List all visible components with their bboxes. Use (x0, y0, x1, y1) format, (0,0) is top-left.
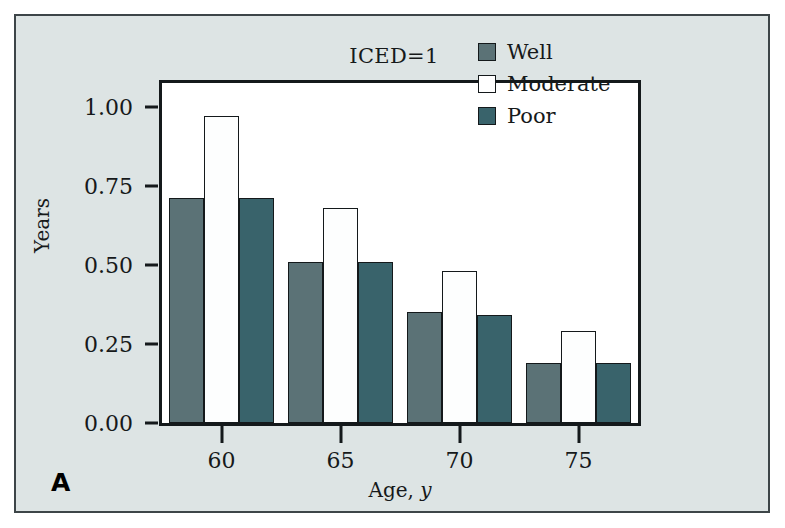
y-tick-label: 1.00 (47, 94, 133, 119)
y-tick-mark (145, 263, 158, 266)
y-axis-label: Years (30, 198, 54, 253)
y-tick-mark (145, 105, 158, 108)
legend-swatch-well-icon (478, 43, 496, 61)
x-axis-label-unit: y (420, 478, 431, 502)
bar-poor-65 (358, 262, 393, 423)
bar-poor-75 (596, 363, 631, 423)
y-tick-mark (145, 422, 158, 425)
y-tick-label: 0.25 (47, 331, 133, 356)
y-tick-mark (145, 342, 158, 345)
panel-label: A (51, 468, 70, 497)
x-tick-label: 75 (544, 448, 614, 473)
legend-swatch-moderate-icon (478, 75, 496, 93)
x-tick-mark (339, 426, 342, 443)
y-tick-mark (145, 184, 158, 187)
x-axis-label: Age, y (159, 478, 641, 502)
bar-well-70 (407, 312, 442, 423)
bar-moderate-65 (323, 208, 358, 423)
legend: WellModeratePoor (478, 39, 610, 135)
bar-poor-70 (477, 315, 512, 423)
x-tick-mark (220, 426, 223, 443)
legend-item-poor[interactable]: Poor (478, 103, 610, 128)
x-tick-label: 65 (306, 448, 376, 473)
bar-poor-60 (239, 198, 274, 423)
bar-well-75 (526, 363, 561, 423)
legend-label: Well (507, 40, 553, 64)
y-tick-label: 0.75 (47, 173, 133, 198)
bar-well-60 (169, 198, 204, 423)
y-tick-label: 0.50 (47, 252, 133, 277)
legend-swatch-poor-icon (478, 107, 496, 125)
chart-title: ICED=1 (16, 44, 772, 68)
legend-label: Moderate (507, 72, 610, 96)
bar-well-65 (288, 262, 323, 423)
y-tick-label: 0.00 (47, 411, 133, 436)
legend-item-well[interactable]: Well (478, 39, 610, 64)
legend-item-moderate[interactable]: Moderate (478, 71, 610, 96)
bar-moderate-60 (204, 116, 239, 423)
bar-moderate-70 (442, 271, 477, 423)
x-tick-mark (458, 426, 461, 443)
legend-label: Poor (507, 104, 556, 128)
x-tick-label: 70 (425, 448, 495, 473)
x-tick-mark (577, 426, 580, 443)
figure-panel: ICED=1 Years 0.000.250.500.751.00 606570… (14, 14, 770, 513)
x-tick-label: 60 (187, 448, 257, 473)
x-axis-label-text: Age, (368, 478, 413, 502)
bar-moderate-75 (561, 331, 596, 423)
